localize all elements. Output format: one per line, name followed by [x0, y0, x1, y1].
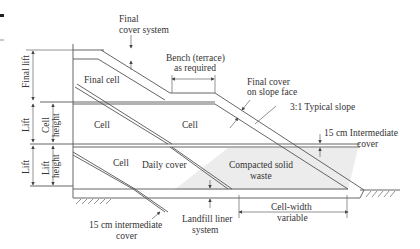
label-cell-2: Cell [182, 120, 198, 130]
label-lift-height: Lift [41, 160, 51, 175]
svg-text:as required: as required [174, 63, 216, 73]
svg-text:height: height [51, 113, 61, 137]
label-intermediate-cover-right: 15 cm Intermediate [324, 128, 398, 138]
label-compacted-waste: Compacted solid [229, 160, 293, 170]
label-cell-3: Cell [113, 158, 129, 168]
svg-text:system: system [192, 225, 219, 235]
svg-text:on slope face: on slope face [247, 87, 297, 97]
label-daily-cover: Daily cover [142, 160, 187, 170]
label-final-cover-system: Final [119, 14, 139, 24]
annotation-arrows [131, 35, 348, 219]
label-cell-height: Cell [41, 117, 51, 133]
svg-text:height: height [51, 154, 61, 178]
label-intermediate-cover-left: 15 cm intermediate [89, 220, 162, 230]
svg-text:cover: cover [116, 231, 138, 241]
corner-mark [0, 14, 4, 17]
svg-text:cover: cover [357, 139, 379, 149]
label-cell-width: Cell-width [271, 202, 312, 212]
label-typical-slope: 3:1 Typical slope [290, 102, 355, 112]
label-final-cover-slope: Final cover [247, 77, 291, 87]
label-lift-1: Lift [21, 117, 31, 132]
label-final-cell: Final cell [84, 75, 120, 85]
svg-text:variable: variable [277, 213, 308, 223]
label-liner: Landfill liner [182, 214, 233, 224]
label-final-lift: Final lift [21, 55, 31, 88]
svg-text:cover system: cover system [119, 25, 169, 35]
label-cell-1: Cell [94, 120, 110, 130]
landfill-diagram: Final cover system Bench (terrace) as re… [0, 0, 420, 249]
svg-text:waste: waste [250, 171, 272, 181]
label-lift-2: Lift [21, 159, 31, 174]
